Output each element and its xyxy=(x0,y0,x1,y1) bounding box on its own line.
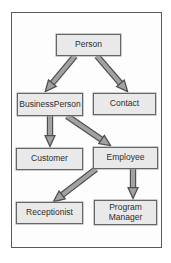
node-employee: Employee xyxy=(93,147,158,169)
node-customer: Customer xyxy=(16,148,83,170)
arrow-person-to-businessperson xyxy=(52,56,75,84)
arrow-person-to-contact xyxy=(97,56,121,84)
node-businessperson: BusinessPerson xyxy=(17,93,83,116)
arrow-businessperson-to-employee xyxy=(67,116,102,140)
node-person: Person xyxy=(56,34,121,56)
node-program-manager: Program Manager xyxy=(94,200,157,225)
node-contact: Contact xyxy=(93,93,156,115)
node-receptionist: Receptionist xyxy=(16,202,83,224)
diagram-canvas: Person BusinessPerson Contact Customer E… xyxy=(0,0,171,263)
arrow-employee-to-receptionist xyxy=(62,169,96,195)
